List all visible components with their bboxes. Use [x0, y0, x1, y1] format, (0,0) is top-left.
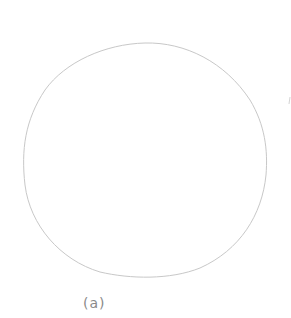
stray-mark [289, 97, 290, 104]
hand-drawn-circle [24, 43, 267, 277]
figure-canvas [0, 0, 291, 318]
figure-label: (a) [83, 295, 106, 311]
